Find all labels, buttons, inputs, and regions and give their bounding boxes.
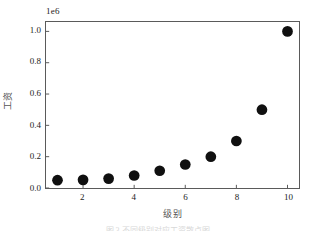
- chart-figure: 1e6 0.00.20.40.60.81.0 246810 工资 级别 图 3 …: [0, 0, 315, 231]
- x-tick-label: 8: [225, 192, 249, 202]
- x-axis-title: 级别: [45, 207, 300, 220]
- x-axis-tick-labels: 246810: [0, 0, 315, 231]
- x-tick-label: 2: [70, 192, 94, 202]
- figure-caption-sliver: 图 3 不同级别对应工资散点图: [0, 226, 315, 231]
- x-tick-label: 4: [122, 192, 146, 202]
- x-tick-label: 10: [276, 192, 300, 202]
- y-axis-title: 工资: [1, 81, 14, 121]
- x-tick-label: 6: [173, 192, 197, 202]
